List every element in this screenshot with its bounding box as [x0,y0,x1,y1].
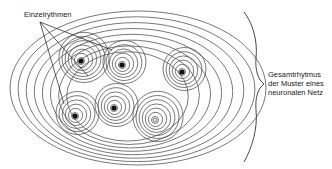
cluster-ring [163,48,206,91]
curly-brace [244,12,264,162]
label-overall-rhythm: Gesamtrhytmus der Muster eines neuronale… [268,70,324,97]
cluster-center-dot [72,113,77,118]
cluster-center-dot [78,58,83,63]
label-overall-line-3: neuronalen Netz [268,88,324,97]
label-overall-line-1: Gesamtrhytmus [268,70,324,79]
cluster-center-dot [179,69,184,74]
label-overall-line-2: der Muster eines [268,79,324,88]
label-individual-rhythms: Einzelrythmen [24,10,72,19]
cluster-ring [59,32,109,82]
cluster-center-dot [119,62,124,67]
cluster-ring [133,91,183,141]
cluster-ring [95,84,138,127]
outer-ring [18,17,255,162]
cluster-center-dot [111,105,116,110]
cluster-ring [103,41,146,84]
